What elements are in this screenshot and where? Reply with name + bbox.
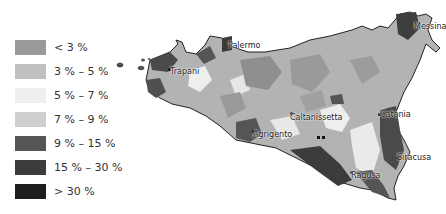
legend-item: < 3 % xyxy=(15,39,88,55)
legend-item: 15 % – 30 % xyxy=(15,159,122,175)
legend-swatch xyxy=(15,136,46,151)
city-label-ragusa: Ragusa xyxy=(351,171,381,180)
legend-label: 3 % – 5 % xyxy=(54,65,108,78)
legend-swatch xyxy=(15,184,46,199)
legend-label: 5 % – 7 % xyxy=(54,89,108,102)
island-outline xyxy=(146,12,440,200)
city-label-caltanissetta: Caltanissetta xyxy=(290,113,342,122)
legend-swatch xyxy=(15,88,46,103)
map-legend: < 3 % 3 % – 5 % 5 % – 7 % 7 % – 9 % 9 % … xyxy=(0,0,120,214)
legend-swatch xyxy=(15,160,46,175)
sicily-choropleth-map xyxy=(110,0,445,214)
city-label-palermo: Palermo xyxy=(228,41,260,50)
legend-item: 3 % – 5 % xyxy=(15,63,108,79)
legend-label: 9 % – 15 % xyxy=(54,137,115,150)
legend-swatch xyxy=(15,112,46,127)
city-label-trapani: Trapani xyxy=(170,67,199,76)
legend-swatch xyxy=(15,40,46,55)
legend-label: > 30 % xyxy=(54,185,95,198)
legend-item: > 30 % xyxy=(15,183,95,199)
city-label-messina: Messina xyxy=(414,22,446,31)
legend-item: 5 % – 7 % xyxy=(15,87,108,103)
legend-swatch xyxy=(15,64,46,79)
city-label-agrigento: Agrigento xyxy=(253,130,292,139)
city-label-siracusa: Siracusa xyxy=(397,153,431,162)
legend-label: < 3 % xyxy=(54,41,88,54)
city-label-catania: Catania xyxy=(380,110,411,119)
legend-item: 7 % – 9 % xyxy=(15,111,108,127)
legend-item: 9 % – 15 % xyxy=(15,135,115,151)
legend-label: 7 % – 9 % xyxy=(54,113,108,126)
